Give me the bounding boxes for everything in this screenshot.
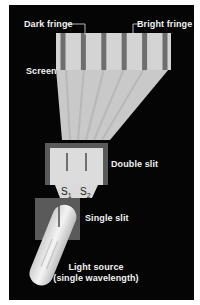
s1-subscript: 1 bbox=[68, 192, 72, 199]
s1-label: S1 bbox=[61, 187, 72, 201]
s2-letter: S bbox=[80, 186, 87, 197]
light-source-label-line1: Light source bbox=[58, 262, 134, 272]
dark-fringe-band bbox=[163, 33, 168, 70]
double-slit-panel bbox=[50, 148, 103, 185]
dark-fringe-band bbox=[61, 33, 66, 70]
double-slit-label: Double slit bbox=[111, 159, 158, 169]
dark-fringe-band bbox=[81, 33, 86, 70]
light-source-label-line2: (single wavelength) bbox=[50, 273, 142, 283]
s2-label: S2 bbox=[80, 187, 91, 201]
interference-beam bbox=[56, 69, 169, 140]
s2-subscript: 2 bbox=[87, 192, 91, 199]
screen bbox=[56, 33, 171, 70]
bright-fringe-label: Bright fringe bbox=[137, 19, 192, 29]
dark-fringe-label: Dark fringe bbox=[24, 19, 73, 29]
dark-fringe-band bbox=[122, 33, 127, 70]
s1-letter: S bbox=[61, 186, 68, 197]
single-slit-label: Single slit bbox=[85, 213, 129, 223]
diagram-graphic bbox=[0, 0, 200, 305]
dark-fringe-band bbox=[101, 33, 106, 70]
screen-label: Screen bbox=[26, 66, 57, 76]
dark-fringe-band bbox=[142, 33, 147, 70]
